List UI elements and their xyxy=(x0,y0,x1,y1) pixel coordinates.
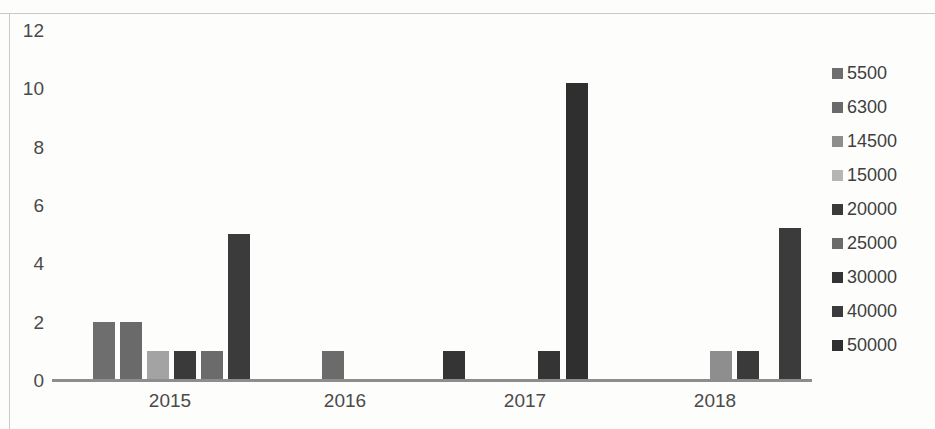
plot-area xyxy=(52,30,814,380)
chart-legend: 5500630014500150002000025000300004000050… xyxy=(832,56,932,362)
bar-2015-40000 xyxy=(228,234,250,380)
x-axis-label-2017: 2017 xyxy=(504,390,546,412)
legend-swatch-icon-5500 xyxy=(832,68,843,79)
bar-2017-30000 xyxy=(538,351,560,380)
legend-swatch-icon-20000 xyxy=(832,204,843,215)
bar-2015-14500 xyxy=(147,351,169,380)
bar-chart: 024681012 2015201620172018 5500630014500… xyxy=(0,0,935,429)
legend-swatch-icon-6300 xyxy=(832,102,843,113)
y-axis-tick-2: 2 xyxy=(10,312,44,331)
x-axis-label-2018: 2018 xyxy=(694,390,736,412)
y-axis-tick-8: 8 xyxy=(10,137,44,156)
legend-label-5500: 5500 xyxy=(847,64,887,82)
legend-label-40000: 40000 xyxy=(847,302,897,320)
y-axis-tick-12: 12 xyxy=(10,21,44,40)
bar-2015-5500 xyxy=(93,322,115,380)
legend-item-20000[interactable]: 20000 xyxy=(832,192,932,226)
x-axis-category-labels: 2015201620172018 xyxy=(52,390,814,420)
legend-item-5500[interactable]: 5500 xyxy=(832,56,932,90)
legend-swatch-icon-14500 xyxy=(832,136,843,147)
legend-label-14500: 14500 xyxy=(847,132,897,150)
bar-2015-20000 xyxy=(174,351,196,380)
legend-item-40000[interactable]: 40000 xyxy=(832,294,932,328)
y-axis-tick-4: 4 xyxy=(10,254,44,273)
bar-2015-25000 xyxy=(201,351,223,380)
x-axis-line xyxy=(52,379,812,382)
legend-swatch-icon-15000 xyxy=(832,170,843,181)
legend-item-14500[interactable]: 14500 xyxy=(832,124,932,158)
legend-swatch-icon-30000 xyxy=(832,272,843,283)
y-axis-tick-6: 6 xyxy=(10,196,44,215)
bar-2017-50000 xyxy=(566,83,588,381)
x-axis-label-2016: 2016 xyxy=(324,390,366,412)
bar-2016-30000 xyxy=(443,351,465,380)
legend-item-25000[interactable]: 25000 xyxy=(832,226,932,260)
y-axis-tick-0: 0 xyxy=(10,371,44,390)
legend-item-15000[interactable]: 15000 xyxy=(832,158,932,192)
legend-label-20000: 20000 xyxy=(847,200,897,218)
frame-top-border xyxy=(0,13,935,14)
legend-swatch-icon-40000 xyxy=(832,306,843,317)
bar-2018-14500 xyxy=(710,351,732,380)
y-axis-tick-10: 10 xyxy=(10,79,44,98)
bar-2016-25000 xyxy=(322,351,344,380)
legend-swatch-icon-25000 xyxy=(832,238,843,249)
legend-swatch-icon-50000 xyxy=(832,340,843,351)
legend-item-6300[interactable]: 6300 xyxy=(832,90,932,124)
legend-label-15000: 15000 xyxy=(847,166,897,184)
legend-label-25000: 25000 xyxy=(847,234,897,252)
legend-item-50000[interactable]: 50000 xyxy=(832,328,932,362)
bar-2018-40000 xyxy=(779,228,801,380)
legend-label-50000: 50000 xyxy=(847,336,897,354)
legend-label-6300: 6300 xyxy=(847,98,887,116)
x-axis-label-2015: 2015 xyxy=(149,390,191,412)
y-axis-tick-labels: 024681012 xyxy=(8,30,44,380)
bar-2018-20000 xyxy=(737,351,759,380)
bar-2015-6300 xyxy=(120,322,142,380)
legend-item-30000[interactable]: 30000 xyxy=(832,260,932,294)
legend-label-30000: 30000 xyxy=(847,268,897,286)
